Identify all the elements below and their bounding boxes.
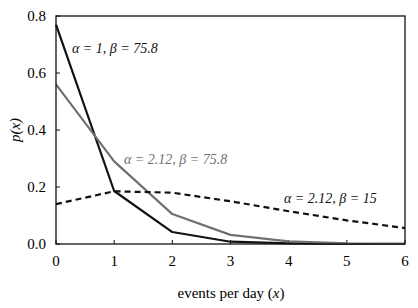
annotation-alpha2.12-beta15: α = 2.12, β = 15 — [284, 191, 377, 206]
y-tick-label: 0.4 — [27, 122, 46, 138]
x-tick-label: 6 — [401, 253, 409, 269]
annotation-alpha2.12-beta75.8: α = 2.12, β = 75.8 — [124, 152, 227, 167]
y-tick-label: 0.6 — [27, 65, 46, 81]
series-line — [56, 84, 405, 243]
y-tick-label: 0.0 — [27, 236, 46, 252]
chart: 01234560.00.20.40.60.8 p(x) events per d… — [0, 0, 418, 308]
y-tick-label: 0.2 — [27, 179, 46, 195]
x-tick-label: 2 — [169, 253, 177, 269]
y-axis-label: p(x) — [7, 118, 24, 143]
annotation-alpha1-beta75.8: α = 1, β = 75.8 — [72, 41, 158, 56]
x-tick-label: 3 — [227, 253, 235, 269]
y-tick-label: 0.8 — [27, 8, 46, 24]
x-tick-label: 0 — [52, 253, 60, 269]
x-tick-label: 5 — [343, 253, 351, 269]
x-axis-label: events per day (x) — [177, 285, 284, 302]
series-lines — [56, 25, 405, 244]
series-line — [56, 25, 405, 244]
x-tick-label: 4 — [285, 253, 293, 269]
x-tick-label: 1 — [110, 253, 118, 269]
